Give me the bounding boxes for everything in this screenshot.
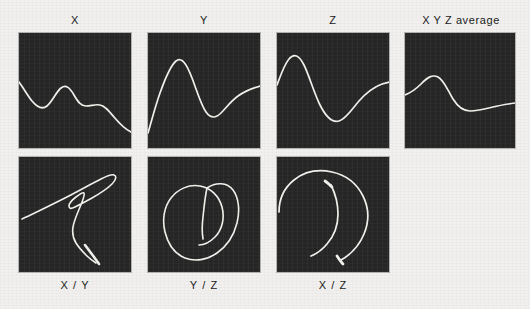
panel-y-over-z-plot — [148, 157, 260, 272]
curve-x-over-z-middle — [311, 185, 338, 256]
panel-title-y: Y — [148, 14, 260, 27]
panel-x-over-y-plot — [19, 157, 131, 272]
panel-x — [19, 33, 131, 148]
panel-x-plot — [19, 33, 131, 148]
panel-label-x-over-z: X / Z — [277, 279, 389, 292]
curve-x-over-y — [22, 175, 116, 263]
panel-z — [277, 33, 389, 148]
curve-x-over-z-outer — [279, 171, 368, 260]
curve-x-over-z-thick-head — [325, 181, 332, 187]
curve-y-over-z-inner-tail — [202, 188, 207, 239]
curve-z — [277, 56, 389, 122]
panel-title-x: X — [19, 14, 131, 27]
curve-y-over-z-outer — [164, 184, 239, 260]
panel-y-plot — [148, 33, 260, 148]
curve-y — [148, 60, 260, 133]
panel-title-z: Z — [277, 14, 389, 27]
curve-xyz-average — [405, 76, 515, 111]
panel-x-over-y — [19, 157, 131, 272]
panel-y-over-z — [148, 157, 260, 272]
figure-panel-grid: X Y Z X Y Z average — [0, 0, 530, 309]
panel-xyz-average-plot — [405, 33, 515, 148]
curve-x — [19, 82, 131, 132]
panel-label-y-over-z: Y / Z — [148, 279, 260, 292]
panel-label-x-over-y: X / Y — [19, 279, 131, 292]
panel-z-plot — [277, 33, 389, 148]
panel-xyz-average — [405, 33, 515, 148]
panel-x-over-z-plot — [277, 157, 389, 272]
panel-x-over-z — [277, 157, 389, 272]
panel-y — [148, 33, 260, 148]
panel-title-xyz-average: X Y Z average — [400, 14, 522, 27]
